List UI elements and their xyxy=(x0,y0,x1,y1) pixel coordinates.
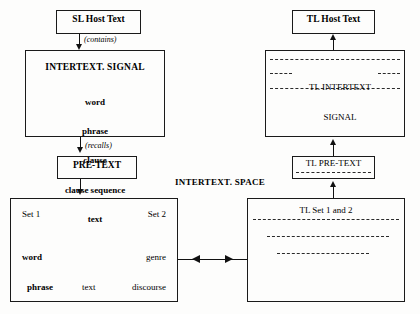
set2-heading: Set 2 xyxy=(106,210,166,219)
tl-signal-dash-line-1 xyxy=(270,59,400,60)
pretext-to-sets-arrowhead-icon xyxy=(77,189,83,195)
tl-sets-dash-line-3 xyxy=(277,253,369,254)
tl-intertext-signal-line1: TL INTERTEXT xyxy=(295,82,385,93)
intertext-space-diagram: SL Host Text (contains) INTERTEXT. SIGNA… xyxy=(0,0,420,314)
set2-item-list: genre discourse text type xyxy=(96,233,166,314)
set1-item: word xyxy=(22,252,77,263)
bidirectional-link-line xyxy=(178,259,247,260)
intertext-signal-item: phrase xyxy=(25,126,165,136)
tl-pretext-dash-line xyxy=(296,172,371,173)
bidirectional-left-arrowhead-icon xyxy=(192,255,200,263)
tl-pretext-to-signal-arrowhead-icon xyxy=(330,139,336,145)
bidirectional-right-arrowhead-icon xyxy=(225,255,233,263)
tl-sets-label: TL Set 1 and 2 xyxy=(247,206,405,215)
tl-signal-to-host-arrow-line xyxy=(333,40,334,50)
set2-item: genre xyxy=(96,252,166,263)
tl-sets-dash-line-2 xyxy=(267,236,389,237)
contains-edge-label: (contains) xyxy=(84,36,116,44)
intertext-signal-title: INTERTEXT. SIGNAL xyxy=(25,63,165,73)
tl-sets-dash-line-1 xyxy=(253,219,399,220)
set1-item: phrase xyxy=(22,282,77,293)
tl-intertext-signal-line2: SIGNAL xyxy=(295,112,385,123)
tl-sets-to-pretext-arrowhead-icon xyxy=(330,181,336,187)
tl-host-text-label: TL Host Text xyxy=(292,15,375,25)
tl-pretext-to-signal-arrow-line xyxy=(333,145,334,156)
pre-text-label: PRE-TEXT xyxy=(57,161,137,171)
recalls-arrowhead-icon xyxy=(77,147,83,153)
tl-signal-to-host-arrowhead-icon xyxy=(330,34,336,40)
recalls-edge-label: (recalls) xyxy=(85,142,112,150)
tl-pre-text-label: TL PRE-TEXT xyxy=(292,159,375,168)
intertext-signal-item: word xyxy=(25,97,165,107)
set2-item: discourse xyxy=(96,282,166,293)
set1-heading: Set 1 xyxy=(22,210,40,219)
sl-host-text-label: SL Host Text xyxy=(56,15,141,25)
tl-intertext-signal-label: TL INTERTEXT SIGNAL xyxy=(295,63,385,142)
intertext-space-title: INTERTEXT. SPACE xyxy=(165,178,275,187)
set1-item-list: word phrase clause clause- sequence xyxy=(22,233,77,314)
tl-sets-to-pretext-arrow-line xyxy=(333,187,334,198)
intertext-signal-item: clause sequence xyxy=(25,185,165,195)
tl-signal-dash-line-2-left xyxy=(270,73,292,74)
sl-sets-shared-item-label: text xyxy=(82,283,96,292)
